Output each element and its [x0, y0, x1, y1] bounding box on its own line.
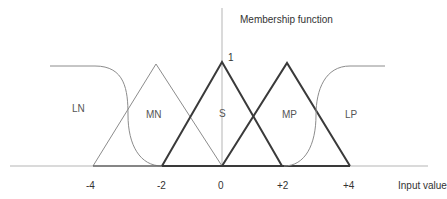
- x-axis-label: Input value: [398, 180, 447, 191]
- x-tick-pos4: +4: [343, 180, 354, 191]
- y-max-label: 1: [228, 52, 234, 63]
- set-label-ln: LN: [72, 103, 85, 114]
- chart-title: Membership function: [240, 14, 333, 25]
- x-tick-neg2: -2: [157, 180, 166, 191]
- set-label-mp: MP: [282, 109, 297, 120]
- x-tick-0: 0: [218, 180, 224, 191]
- x-tick-neg4: -4: [86, 180, 95, 191]
- x-tick-pos2: +2: [277, 180, 288, 191]
- membership-function-diagram: [0, 0, 447, 199]
- set-label-mn: MN: [146, 109, 162, 120]
- set-label-s: S: [219, 108, 226, 119]
- set-label-lp: LP: [345, 109, 357, 120]
